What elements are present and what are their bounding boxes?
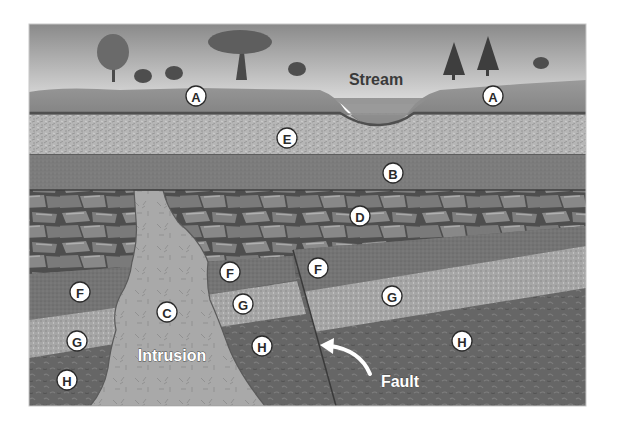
label-g-right: G — [382, 286, 402, 306]
geologic-cross-section: Stream Intrusion Fault A A E B D C F F F… — [0, 0, 618, 428]
svg-text:F: F — [314, 262, 322, 277]
label-f-right: F — [308, 258, 328, 278]
layer-e — [29, 113, 586, 154]
label-b: B — [383, 163, 403, 183]
svg-text:F: F — [226, 266, 234, 281]
svg-text:G: G — [387, 290, 397, 305]
fault-caption: Fault — [381, 373, 420, 390]
svg-text:B: B — [388, 167, 397, 182]
stream-caption: Stream — [349, 71, 403, 88]
svg-text:A: A — [191, 90, 201, 105]
svg-text:G: G — [238, 298, 248, 313]
intrusion-caption: Intrusion — [138, 347, 206, 364]
svg-text:D: D — [355, 210, 364, 225]
svg-text:F: F — [76, 286, 84, 301]
label-e: E — [277, 128, 297, 148]
label-c: C — [157, 302, 177, 322]
label-h-middle: H — [252, 336, 272, 356]
label-a-right: A — [483, 86, 503, 106]
svg-text:H: H — [257, 340, 266, 355]
label-g-middle: G — [233, 294, 253, 314]
label-a-left: A — [186, 86, 206, 106]
label-f-left: F — [70, 282, 90, 302]
svg-text:H: H — [457, 335, 466, 350]
svg-text:C: C — [162, 306, 172, 321]
label-h-left: H — [57, 370, 77, 390]
label-d: D — [350, 206, 370, 226]
svg-text:E: E — [283, 132, 292, 147]
label-g-left: G — [67, 331, 87, 351]
label-h-right: H — [452, 331, 472, 351]
svg-text:G: G — [72, 335, 82, 350]
label-f-middle: F — [220, 262, 240, 282]
layer-b — [29, 153, 586, 191]
svg-text:A: A — [488, 90, 498, 105]
svg-text:H: H — [62, 374, 71, 389]
